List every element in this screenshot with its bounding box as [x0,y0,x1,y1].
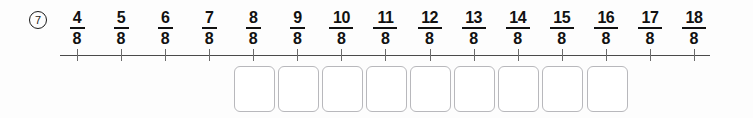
fraction-numerator: 6 [145,9,185,26]
fraction-bar [114,27,129,29]
fraction-numerator: 8 [233,9,273,26]
fraction-bar [418,27,442,29]
fraction-bar [462,27,486,29]
fraction-numerator: 10 [321,9,361,26]
fraction-bar [373,27,397,29]
fraction-label: 88 [233,9,273,47]
fraction-label: 58 [101,9,141,47]
problem-number-badge: 7 [29,11,47,29]
fraction-label: 68 [145,9,185,47]
fraction-label: 78 [189,9,229,47]
fraction-numerator: 7 [189,9,229,26]
fraction-numerator: 15 [542,9,582,26]
tick-mark [474,49,475,61]
tick-mark [341,49,342,61]
answer-box[interactable] [454,66,495,112]
tick-mark [297,49,298,61]
fraction-numerator: 9 [277,9,317,26]
fraction-bar [158,27,173,29]
fraction-numerator: 11 [365,9,405,26]
fraction-label: 158 [542,9,582,47]
fraction-label: 178 [630,9,670,47]
tick-mark [430,49,431,61]
answer-box[interactable] [278,66,319,112]
fraction-bar [682,27,706,29]
fraction-denominator: 8 [57,30,97,47]
fraction-denominator: 8 [630,30,670,47]
fraction-bar [246,27,261,29]
answer-box[interactable] [234,66,275,112]
fraction-numerator: 4 [57,9,97,26]
tick-mark [385,49,386,61]
fraction-denominator: 8 [145,30,185,47]
fraction-denominator: 8 [321,30,361,47]
fraction-numerator: 12 [410,9,450,26]
tick-mark [77,49,78,61]
tick-mark [650,49,651,61]
tick-mark [694,49,695,61]
fraction-numerator: 5 [101,9,141,26]
fraction-denominator: 8 [101,30,141,47]
fraction-numerator: 18 [674,9,714,26]
fraction-bar [329,27,353,29]
fraction-denominator: 8 [277,30,317,47]
fraction-label: 188 [674,9,714,47]
fraction-denominator: 8 [365,30,405,47]
fraction-label: 168 [586,9,626,47]
fraction-denominator: 8 [189,30,229,47]
fraction-bar [290,27,305,29]
fraction-denominator: 8 [674,30,714,47]
tick-mark [121,49,122,61]
fraction-denominator: 8 [498,30,538,47]
fraction-bar [70,27,85,29]
tick-mark [606,49,607,61]
fraction-bar [506,27,530,29]
answer-box[interactable] [498,66,539,112]
fraction-denominator: 8 [233,30,273,47]
tick-mark [518,49,519,61]
fraction-numerator: 13 [454,9,494,26]
fraction-label: 148 [498,9,538,47]
fraction-label: 118 [365,9,405,47]
tick-mark [253,49,254,61]
fraction-denominator: 8 [586,30,626,47]
fraction-denominator: 8 [542,30,582,47]
answer-box[interactable] [410,66,451,112]
fraction-bar [594,27,618,29]
fraction-denominator: 8 [454,30,494,47]
fraction-bar [550,27,574,29]
fraction-label: 98 [277,9,317,47]
fraction-numerator: 17 [630,9,670,26]
fraction-label: 128 [410,9,450,47]
tick-mark [165,49,166,61]
fraction-bar [638,27,662,29]
fraction-bar [202,27,217,29]
fraction-numerator: 14 [498,9,538,26]
answer-box[interactable] [322,66,363,112]
tick-mark [209,49,210,61]
fraction-label: 108 [321,9,361,47]
fraction-numerator: 16 [586,9,626,26]
answer-box[interactable] [542,66,583,112]
answer-box[interactable] [366,66,407,112]
fraction-denominator: 8 [410,30,450,47]
fraction-label: 138 [454,9,494,47]
fraction-label: 48 [57,9,97,47]
answer-box[interactable] [587,66,628,112]
worksheet-canvas: 7 48586878889810811812813814815816817818… [0,0,753,118]
tick-mark [562,49,563,61]
